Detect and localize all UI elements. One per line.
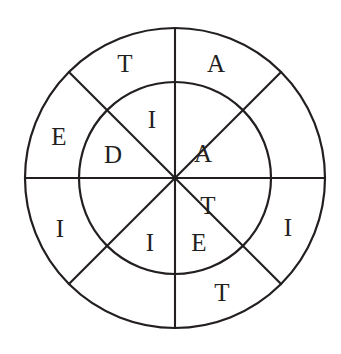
sector-label-inner-south-southwest: I	[146, 229, 154, 256]
sector-label-outer-west-northwest: E	[51, 123, 66, 150]
sector-label-inner-south-southeast: E	[191, 229, 206, 256]
letter-wheel-figure: T A I T I E I A T E I D	[0, 0, 341, 354]
sector-label-inner-east-southeast: T	[200, 192, 215, 219]
sector-label-outer-west-southwest: I	[56, 215, 64, 242]
sector-label-outer-east-southeast: I	[284, 214, 292, 241]
sector-label-inner-west-northwest: D	[104, 141, 122, 168]
sector-label-outer-south-southeast: T	[214, 279, 229, 306]
letter-wheel-svg: T A I T I E I A T E I D	[0, 0, 341, 354]
sector-label-inner-east-northeast: A	[194, 140, 212, 167]
sector-label-outer-north-northwest: T	[117, 50, 132, 77]
sector-label-outer-north-northeast: A	[207, 50, 225, 77]
sector-label-inner-north-northwest: I	[148, 106, 156, 133]
